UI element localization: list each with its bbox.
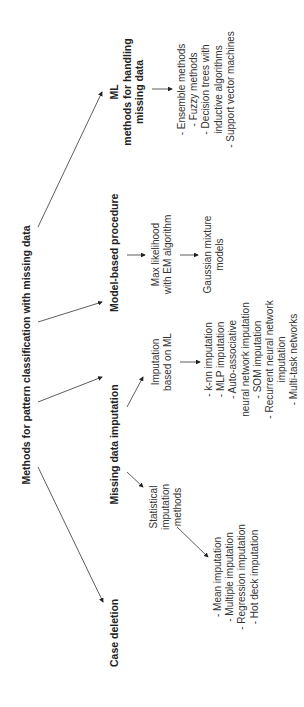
list-item: - Auto-associative	[227, 297, 239, 422]
ml-methods-line-3: missing data	[133, 37, 146, 147]
list-item: - Decision trees with	[200, 27, 212, 152]
mlimp-line-1: Imputation	[150, 327, 162, 397]
stat-line-1: Statistical	[148, 477, 160, 537]
category-missing-data-imputation: Missing data imputation	[108, 382, 121, 507]
ml-imputation-label: Imputation based on ML	[150, 327, 174, 397]
list-item: - Recurrent neural network	[264, 297, 276, 422]
ml-methods-line-2: methods for handling	[121, 37, 134, 147]
diagram-title: Methods for pattern classification with …	[20, 220, 33, 490]
list-item: - Regression imputation	[236, 522, 248, 632]
stat-line-2: imputation	[160, 477, 172, 537]
em-line-2: with EM algorithm	[162, 207, 174, 302]
list-item: - Fuzzy methods	[188, 27, 200, 152]
list-item: - Support vector machines	[225, 27, 237, 152]
list-item: - Ensemble methods	[176, 27, 188, 152]
category-case-deletion: Case deletion	[108, 607, 121, 667]
list-item: imputation	[276, 297, 288, 422]
list-item: - SOM imputation	[252, 297, 264, 422]
ml-methods-line-1: ML	[108, 37, 121, 147]
statistical-imputation-list: - Mean imputation - Multiple imputation …	[212, 522, 261, 632]
mlimp-line-2: based on ML	[162, 327, 174, 397]
category-model-based-procedure: Model-based procedure	[108, 202, 121, 312]
diagram-canvas: Methods for pattern classification with …	[0, 0, 304, 707]
gmm-line-1: Gaussian mixture	[202, 207, 214, 302]
ml-methods-list: - Ensemble methods - Fuzzy methods - Dec…	[176, 27, 237, 152]
gaussian-mixture-node: Gaussian mixture models	[202, 207, 226, 302]
gmm-line-2: models	[214, 207, 226, 302]
list-item: - Hot deck imputation	[249, 522, 261, 632]
list-item: neural network imputation	[240, 297, 252, 422]
max-likelihood-em-node: Max likelihood with EM algorithm	[150, 207, 174, 302]
em-line-1: Max likelihood	[150, 207, 162, 302]
list-item: - Multi-task networks	[288, 297, 300, 422]
list-item: - Multiple imputation	[224, 522, 236, 632]
list-item: - k-nn imputation	[203, 297, 215, 422]
list-item: - Mean imputation	[212, 522, 224, 632]
ml-imputation-list: - k-nn imputation - MLP imputation - Aut…	[203, 297, 301, 422]
stat-line-3: methods	[172, 477, 184, 537]
category-ml-methods: ML methods for handling missing data	[108, 37, 146, 147]
list-item: inductive algorithms	[213, 27, 225, 152]
list-item: - MLP imputation	[215, 297, 227, 422]
statistical-imputation-label: Statistical imputation methods	[148, 477, 184, 537]
